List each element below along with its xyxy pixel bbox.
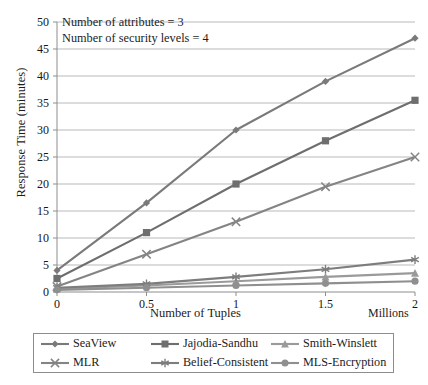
y-axis-tick-label: 5 bbox=[43, 258, 49, 272]
legend-item[interactable]: MLR bbox=[40, 356, 150, 370]
y-axis-tick-label: 15 bbox=[37, 204, 49, 218]
y-axis-tick-label: 30 bbox=[37, 123, 49, 137]
legend-item[interactable]: SeaView bbox=[40, 337, 150, 351]
square-marker-icon bbox=[232, 180, 239, 187]
y-tick-labels-group: 05101520253035404550 bbox=[37, 15, 57, 299]
y-axis-tick-label: 25 bbox=[37, 150, 49, 164]
circle-marker-icon bbox=[322, 280, 329, 287]
asterisk-marker-icon bbox=[150, 356, 180, 370]
data-series bbox=[53, 153, 419, 291]
circle-marker-icon bbox=[281, 359, 288, 366]
chart-annotation: Number of attributes = 3 Number of secur… bbox=[62, 15, 209, 46]
y-axis-tick-label: 20 bbox=[37, 177, 49, 191]
circle-marker-icon bbox=[232, 282, 239, 289]
x-axis-tick-label: 1.5 bbox=[318, 297, 333, 311]
legend-item[interactable]: Belief-Consistent bbox=[150, 356, 270, 370]
diamond-marker-icon bbox=[40, 337, 70, 351]
y-axis-tick-label: 35 bbox=[37, 96, 49, 110]
gridlines-group bbox=[57, 22, 415, 265]
legend-label: Belief-Consistent bbox=[183, 356, 268, 368]
annotation-line-security-levels: Number of security levels = 4 bbox=[62, 31, 209, 47]
legend-items-grid: SeaViewJajodia-SandhuSmith-WinslettMLRBe… bbox=[34, 334, 393, 372]
circle-marker-icon bbox=[143, 284, 150, 291]
legend-label: MLS-Encryption bbox=[303, 356, 386, 368]
annotation-line-attributes: Number of attributes = 3 bbox=[62, 15, 209, 31]
y-axis-tick-label: 10 bbox=[37, 231, 49, 245]
square-marker-icon bbox=[411, 97, 418, 104]
square-marker-icon bbox=[322, 137, 329, 144]
legend-label: SeaView bbox=[73, 337, 116, 349]
square-marker-icon bbox=[53, 275, 60, 282]
legend-label: Jajodia-Sandhu bbox=[183, 337, 258, 349]
legend-label: Smith-Winslett bbox=[303, 337, 377, 349]
data-series bbox=[53, 97, 418, 282]
square-marker-icon bbox=[161, 340, 168, 347]
legend-item[interactable]: MLS-Encryption bbox=[270, 356, 387, 370]
legend-label: MLR bbox=[73, 356, 99, 368]
diamond-marker-icon bbox=[411, 35, 418, 42]
y-axis-tick-label: 40 bbox=[37, 69, 49, 83]
circle-marker-icon bbox=[53, 286, 60, 293]
square-marker-icon bbox=[150, 337, 180, 351]
x-axis-tick-label: 0 bbox=[54, 297, 60, 311]
y-axis-tick-label: 0 bbox=[43, 285, 49, 299]
circle-marker-icon bbox=[411, 278, 418, 285]
x-axis-tick-label: 2 bbox=[412, 297, 418, 311]
chart-legend: SeaViewJajodia-SandhuSmith-WinslettMLRBe… bbox=[33, 333, 394, 373]
cross-marker-icon bbox=[40, 356, 70, 370]
y-axis-title: Response Time (minutes) bbox=[14, 28, 29, 238]
series-line bbox=[57, 38, 415, 270]
line-chart-svg: 05101520253035404550 00.511.52 bbox=[0, 0, 428, 320]
x-axis-title: Number of Tuples bbox=[150, 306, 241, 321]
triangle-marker-icon bbox=[270, 337, 300, 351]
x-axis-units-label: Millions bbox=[368, 306, 409, 321]
data-series-group bbox=[53, 35, 419, 294]
square-marker-icon bbox=[143, 229, 150, 236]
circle-marker-icon bbox=[270, 356, 300, 370]
y-axis-tick-label: 45 bbox=[37, 42, 49, 56]
legend-item[interactable]: Jajodia-Sandhu bbox=[150, 337, 270, 351]
chart-plot-container: 05101520253035404550 00.511.52 Response … bbox=[0, 0, 428, 320]
diamond-marker-icon bbox=[52, 340, 59, 347]
chart-figure: 05101520253035404550 00.511.52 Response … bbox=[0, 0, 428, 385]
y-axis-tick-label: 50 bbox=[37, 15, 49, 29]
legend-item[interactable]: Smith-Winslett bbox=[270, 337, 387, 351]
